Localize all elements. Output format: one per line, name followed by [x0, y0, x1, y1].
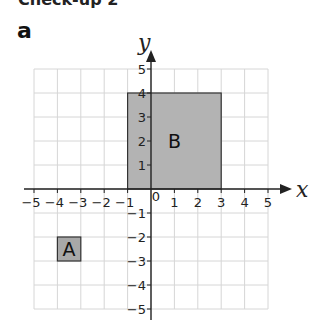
shape-label-a: A [63, 238, 76, 260]
y-tick-label: 3 [138, 110, 146, 125]
x-tick-label: 3 [217, 195, 225, 210]
shape-label-b: B [168, 130, 181, 152]
x-tick-label: −3 [68, 195, 87, 210]
x-tick-label: −5 [21, 195, 40, 210]
y-tick-label: −1 [127, 206, 146, 221]
y-axis-label: y [137, 30, 151, 55]
x-tick-label: 2 [194, 195, 202, 210]
y-tick-label: −2 [127, 230, 146, 245]
x-tick-label: −2 [92, 195, 111, 210]
coordinate-grid: ABxy−5−4−3−2−11234554321−1−2−3−4−50 [0, 0, 312, 320]
x-tick-label: 5 [264, 195, 272, 210]
x-axis-arrow-icon [280, 184, 292, 194]
y-tick-label: −3 [127, 254, 146, 269]
y-tick-label: 1 [138, 158, 146, 173]
origin-label: 0 [152, 189, 160, 204]
x-axis-label: x [296, 177, 309, 202]
x-tick-label: 4 [240, 195, 248, 210]
y-tick-label: 2 [138, 134, 146, 149]
y-tick-label: 5 [138, 62, 146, 77]
x-tick-label: −4 [45, 195, 64, 210]
x-tick-label: 1 [170, 195, 178, 210]
y-tick-label: −4 [127, 278, 146, 293]
y-tick-label: −5 [127, 302, 146, 317]
y-tick-label: 4 [138, 86, 146, 101]
